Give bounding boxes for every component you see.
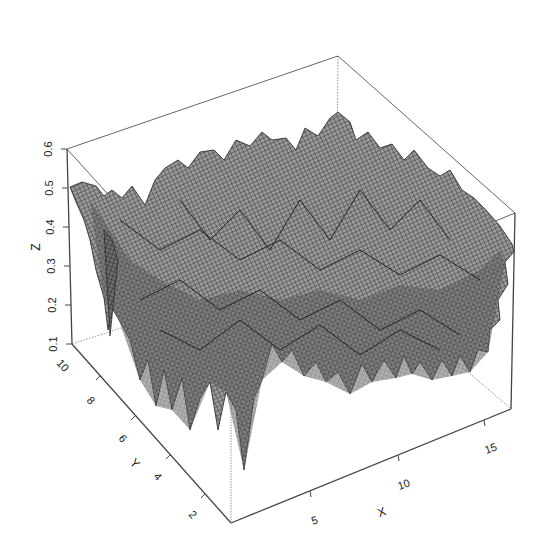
z-axis-title: Z	[29, 243, 43, 250]
y-axis-title: Y	[127, 456, 143, 471]
z-tick-0.5: 0.5	[43, 180, 55, 195]
z-tick-0.6: 0.6	[42, 141, 54, 156]
y-tick-10: 10	[54, 357, 71, 374]
z-tick-0.4: 0.4	[44, 219, 56, 234]
z-axis	[61, 149, 72, 344]
x-tick-10: 10	[396, 477, 412, 492]
z-tick-0.1: 0.1	[47, 336, 59, 351]
y-tick-8: 8	[84, 394, 97, 407]
z-tick-0.2: 0.2	[46, 297, 58, 312]
x-tick-5: 5	[310, 514, 320, 527]
y-tick-6: 6	[116, 432, 129, 445]
x-tick-15: 15	[483, 441, 499, 456]
y-tick-4: 4	[151, 470, 164, 483]
y-tick-2: 2	[186, 508, 199, 521]
x-axis-title: X	[375, 504, 387, 520]
surface-plot: 0.6 0.5 0.4 0.3 0.2 0.1 Z 10 8 6 4 2 Y 5…	[0, 0, 548, 557]
z-tick-0.3: 0.3	[45, 258, 57, 273]
x-tick-labels: 5 10 15	[310, 441, 499, 527]
z-tick-labels: 0.6 0.5 0.4 0.3 0.2 0.1	[42, 141, 59, 351]
